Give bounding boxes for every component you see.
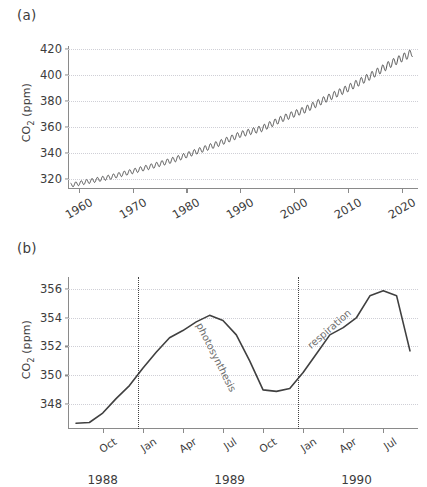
x-tick-mark (103, 429, 104, 433)
x-tick-label: 1990 (224, 195, 256, 222)
y-axis-label-text-b: CO (20, 363, 33, 380)
y-axis-label-sub-b: 2 (27, 357, 36, 362)
x-tick-mark (263, 429, 264, 433)
panel-a-label: (a) (17, 7, 36, 23)
x-tick-mark (383, 429, 384, 433)
y-axis-label-sub-a: 2 (27, 120, 36, 125)
year-group-label: 1988 (87, 473, 118, 487)
x-tick-mark (186, 189, 187, 193)
y-tick-label: 320 (40, 172, 62, 186)
panel-b-y-axis-label: CO2 (ppm) (20, 310, 35, 390)
x-tick-mark (143, 429, 144, 433)
x-tick-mark (79, 189, 80, 193)
x-tick-mark (223, 429, 224, 433)
x-tick-mark (240, 189, 241, 193)
x-tick-label: Apr (337, 435, 359, 455)
y-axis-label-text-a: CO (20, 126, 33, 143)
y-tick-label: 352 (40, 339, 62, 353)
panel-a: (a) CO2 (ppm) 320340360380400420 1960197… (0, 0, 427, 237)
panel-a-y-axis-label: CO2 (ppm) (20, 73, 35, 153)
x-tick-label: Oct (96, 435, 118, 455)
y-tick-label: 356 (40, 282, 62, 296)
x-tick-mark (343, 429, 344, 433)
x-tick-label: Jan (138, 435, 158, 454)
y-tick-label: 348 (40, 397, 62, 411)
x-tick-label: Jul (382, 435, 399, 452)
panel-b-label: (b) (17, 240, 37, 256)
y-tick-label: 350 (40, 368, 62, 382)
panel-b-series-line (68, 277, 418, 429)
y-tick-label: 400 (40, 68, 62, 82)
x-tick-label: Jul (221, 435, 238, 452)
x-tick-label: 1960 (62, 195, 94, 222)
y-axis-label-unit-a: (ppm) (20, 83, 33, 120)
year-group-label: 1990 (341, 473, 372, 487)
panel-b-plot-area: 348350352354356 OctJanAprJulOctJanAprJul… (68, 277, 418, 429)
year-group-label: 1989 (214, 473, 245, 487)
y-tick-label: 354 (40, 311, 62, 325)
panel-a-series-line (68, 46, 418, 189)
x-tick-mark (183, 429, 184, 433)
y-tick-label: 360 (40, 120, 62, 134)
x-tick-label: 2000 (278, 195, 310, 222)
x-tick-label: 1980 (170, 195, 202, 222)
y-axis-label-unit-b: (ppm) (20, 320, 33, 357)
x-tick-label: Jan (299, 435, 319, 454)
x-tick-label: 1970 (116, 195, 148, 222)
x-tick-mark (133, 189, 134, 193)
y-tick-label: 420 (40, 42, 62, 56)
panel-a-plot-area: 320340360380400420 196019701980199020002… (68, 46, 418, 189)
x-tick-label: 2020 (385, 195, 417, 222)
x-tick-mark (303, 429, 304, 433)
x-tick-mark (348, 189, 349, 193)
x-tick-label: 2010 (332, 195, 364, 222)
x-tick-label: Apr (177, 435, 199, 455)
x-tick-mark (294, 189, 295, 193)
x-tick-label: Oct (257, 435, 279, 455)
y-tick-label: 340 (40, 146, 62, 160)
x-tick-mark (402, 189, 403, 193)
y-tick-label: 380 (40, 94, 62, 108)
